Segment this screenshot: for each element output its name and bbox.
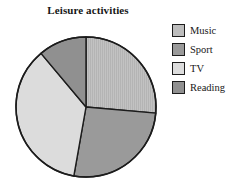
legend-swatch-reading [172, 81, 185, 94]
legend-label-reading: Reading [190, 81, 225, 94]
chart-legend: Music Sport TV Reading [172, 21, 242, 97]
pie-slice-music [86, 37, 156, 113]
chart-title: Leisure activities [0, 4, 176, 16]
legend-label-music: Music [190, 24, 216, 37]
legend-label-sport: Sport [190, 43, 213, 56]
legend-swatch-tv [172, 62, 185, 75]
legend-item-music: Music [172, 21, 242, 40]
legend-label-tv: TV [190, 62, 204, 75]
legend-item-sport: Sport [172, 40, 242, 59]
pie-svg [0, 16, 176, 187]
pie-plot-area [0, 16, 176, 187]
legend-item-reading: Reading [172, 78, 242, 97]
legend-swatch-sport [172, 43, 185, 56]
pie-slice-sport [74, 107, 156, 177]
pie-chart-figure: Leisure activities Music Sport TV [0, 0, 242, 187]
legend-swatch-music [172, 24, 185, 37]
legend-item-tv: TV [172, 59, 242, 78]
